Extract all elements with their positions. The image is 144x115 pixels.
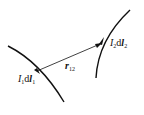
current-direction-2-arrow-icon	[99, 37, 104, 45]
label-element-2: I2dl2	[110, 38, 127, 49]
current-wire-1	[8, 46, 64, 102]
label-r12: r12	[65, 61, 75, 72]
label-element-1: I1dl1	[18, 74, 35, 85]
diagram-canvas	[0, 0, 144, 115]
